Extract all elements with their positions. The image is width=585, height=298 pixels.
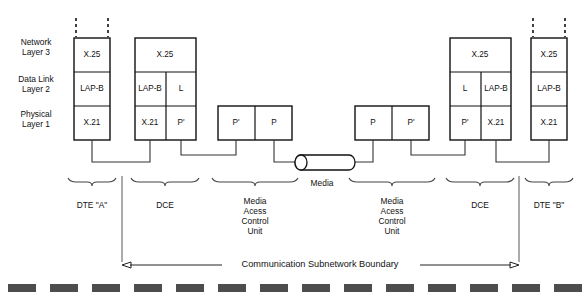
caption-dce-right: DCE [471,200,489,210]
wire-dte-a-to-dce-left [92,140,150,162]
layer-label-physical: Physical Layer 1 [20,109,51,129]
caption-mac-right-line2: Acess [381,206,404,216]
brace-mac-left: Media Acess Control Unit [212,178,298,236]
caption-mac-right-line4: Unit [385,226,401,236]
bottom-bar-dash [428,284,456,292]
mac-right-cell-physical-0: P [370,118,376,127]
bottom-bar-dash [302,284,330,292]
layer-label-network: Network Layer 3 [21,37,53,57]
layer-label-physical-line2: Layer 1 [22,119,50,129]
dte-a-cell-physical-0: X.21 [84,118,101,127]
bottom-bar-dash [8,284,36,292]
dce-left-cell-physical-1: P' [177,118,184,127]
bottom-bar-dash [176,284,204,292]
caption-mac-left-line2: Acess [244,206,267,216]
dce-right-cell-datalink-0: L [463,84,468,93]
media-label: Media [311,178,334,188]
brace-dte-a: DTE "A" [68,178,116,210]
caption-mac-right-line1: Media [381,196,404,206]
layer-label-physical-line1: Physical [20,109,51,119]
brace-dte-b-path [525,178,573,186]
bottom-bar-dash [50,284,78,292]
dce-left-cell-datalink-0: LAP-B [138,84,162,93]
caption-mac-left-line4: Unit [248,226,264,236]
caption-mac-right-line3: Control [379,216,406,226]
wire-dce-right-to-dte-b [496,140,549,162]
dce-left-cell-datalink-1: L [179,84,184,93]
wire-mac-right-to-dce-right [411,140,465,155]
dce-left-cell-network-0: X.25 [157,50,174,59]
bottom-bar-dash [470,284,498,292]
dce-left-cell-physical-0: X.21 [142,118,159,127]
mac-right-cell-physical-1: P' [407,118,414,127]
caption-mac-left-line1: Media [244,196,267,206]
bottom-bar-dash [260,284,288,292]
caption-dce-left: DCE [156,200,174,210]
network-layer-diagram: Network Layer 3 Data Link Layer 2 Physic… [0,0,585,298]
boundary-arrow-head-left [122,262,131,268]
diagram-canvas: Network Layer 3 Data Link Layer 2 Physic… [0,0,585,298]
stack-dte-b: X.25 LAP-B X.21 [531,18,567,140]
caption-mac-left-line3: Control [242,216,269,226]
dce-right-cell-network-0: X.25 [472,50,489,59]
stack-mac-left: P' P [218,106,292,140]
stack-dce-left: X.25 LAP-B L X.21 P' [135,38,196,140]
bottom-bar-dash [218,284,246,292]
wire-dce-left-to-mac-left [181,140,236,155]
media-cylinder: Media [295,155,355,188]
bottom-bar-dash [92,284,120,292]
brace-dce-right-path [446,178,514,186]
boundary-label: Communication Subnetwork Boundary [242,259,399,269]
stack-dce-right: X.25 L LAP-B P' X.21 [450,38,511,140]
layer-label-network-line1: Network [21,37,53,47]
brace-dce-right: DCE [446,178,514,210]
caption-dte-b: DTE "B" [534,200,565,210]
dce-right-cell-datalink-1: LAP-B [484,84,508,93]
brace-mac-right-path [349,178,435,186]
dte-b-cell-network-0: X.25 [541,50,558,59]
dte-a-cell-datalink-0: LAP-B [80,84,104,93]
bottom-bar-dash [386,284,414,292]
layer-label-datalink-line2: Layer 2 [22,84,50,94]
wire-mac-left-to-media [274,140,296,162]
stack-mac-right: P P' [355,106,429,140]
brace-dte-b: DTE "B" [525,178,573,210]
bottom-bar-dash [554,284,582,292]
layer-label-datalink: Data Link Layer 2 [18,74,54,94]
bottom-dashed-bar [8,284,582,292]
brace-dce-left-path [131,178,199,186]
stack-dte-a: X.25 LAP-B X.21 [74,18,110,140]
dte-a-cell-network-0: X.25 [84,50,101,59]
media-cylinder-cap [295,155,307,170]
dce-right-cell-physical-1: X.21 [488,118,505,127]
mac-left-cell-physical-0: P' [232,118,239,127]
dte-b-cell-datalink-0: LAP-B [537,84,561,93]
caption-dte-a: DTE "A" [77,200,108,210]
layer-label-network-line2: Layer 3 [22,47,50,57]
brace-mac-right: Media Acess Control Unit [349,178,435,236]
mac-left-cell-physical-1: P [271,118,277,127]
bottom-bar-dash [134,284,162,292]
brace-mac-left-path [212,178,298,186]
wire-media-to-mac-right [354,140,373,162]
bottom-bar-dash [512,284,540,292]
dte-b-cell-physical-0: X.21 [541,118,558,127]
brace-dce-left: DCE [131,178,199,210]
bottom-bar-dash [344,284,372,292]
dce-right-cell-physical-0: P' [461,118,468,127]
brace-dte-a-path [68,178,116,186]
boundary-arrow: Communication Subnetwork Boundary [122,259,519,269]
boundary-arrow-head-right [510,262,519,268]
layer-label-datalink-line1: Data Link [18,74,54,84]
